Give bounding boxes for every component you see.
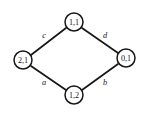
edge-c-line [31,28,66,55]
node-top: 1,1 [65,13,83,31]
edge-b-line [82,64,118,90]
edge-label-d: d [103,31,108,40]
edge-label-b: b [103,78,107,87]
graph-diagram: c d a b 1,1 2,1 0,1 1,2 [0,0,148,118]
edge-label-a: a [42,78,46,87]
node-top-label: 1,1 [69,18,79,27]
edge-a-line [31,66,66,90]
node-group: 1,1 2,1 0,1 1,2 [14,13,135,104]
edge-label-c: c [42,31,46,40]
node-bottom: 1,2 [65,86,83,104]
graph-canvas: c d a b 1,1 2,1 0,1 1,2 [0,0,148,118]
node-left-label: 2,1 [18,56,28,65]
node-bottom-label: 1,2 [69,91,79,100]
edge-d-line [82,28,118,53]
node-right-label: 0,1 [121,54,131,63]
node-right: 0,1 [117,49,135,67]
node-left: 2,1 [14,51,32,69]
